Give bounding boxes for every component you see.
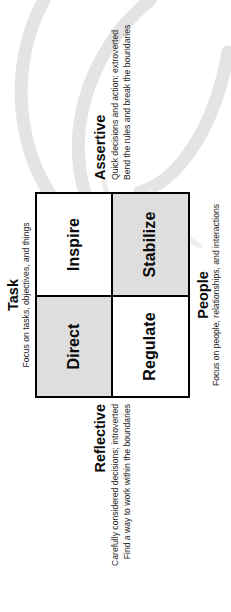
quadrant-label-regulate: Regulate	[141, 312, 159, 380]
axis-sub-reflective-line2: Find a way to work within the boundaries	[122, 404, 133, 559]
axis-title-task: Task	[5, 192, 21, 398]
diagram-canvas: Task Focus on tasks, objectives, and thi…	[0, 0, 231, 612]
quadrant-direct[interactable]: Direct	[37, 295, 113, 396]
quadrant-inspire[interactable]: Inspire	[37, 194, 113, 295]
quadrant-grid: Direct Inspire Regulate Stabilize	[35, 192, 190, 398]
axis-title-assertive: Assertive	[92, 115, 108, 180]
axis-sub-assertive-line2: Bend the rules and break the boundaries	[122, 25, 133, 180]
axis-sub-people-line1: Focus on people, relationships, and inte…	[211, 192, 222, 398]
axis-label-people: People Focus on people, relationships, a…	[192, 192, 223, 398]
quadrant-stabilize[interactable]: Stabilize	[113, 194, 189, 295]
axis-sub-task-line1: Focus on tasks, objectives, and things	[22, 192, 33, 398]
axis-title-people: People	[195, 192, 211, 398]
quadrant-label-direct: Direct	[65, 324, 83, 370]
quadrant-label-stabilize: Stabilize	[141, 212, 159, 278]
axis-sub-reflective-line1: Carefully considered decisions; introver…	[110, 404, 121, 566]
axis-sub-assertive-line1: Quick decisions and action: extroverted	[110, 30, 121, 180]
axis-label-reflective: Reflective Carefully considered decision…	[35, 404, 190, 610]
axis-title-reflective: Reflective	[92, 404, 108, 473]
quadrant-label-inspire: Inspire	[65, 218, 83, 271]
axis-label-task: Task Focus on tasks, objectives, and thi…	[5, 192, 35, 398]
axis-label-assertive: Assertive Quick decisions and action: ex…	[35, 2, 190, 180]
quadrant-regulate[interactable]: Regulate	[113, 295, 189, 396]
